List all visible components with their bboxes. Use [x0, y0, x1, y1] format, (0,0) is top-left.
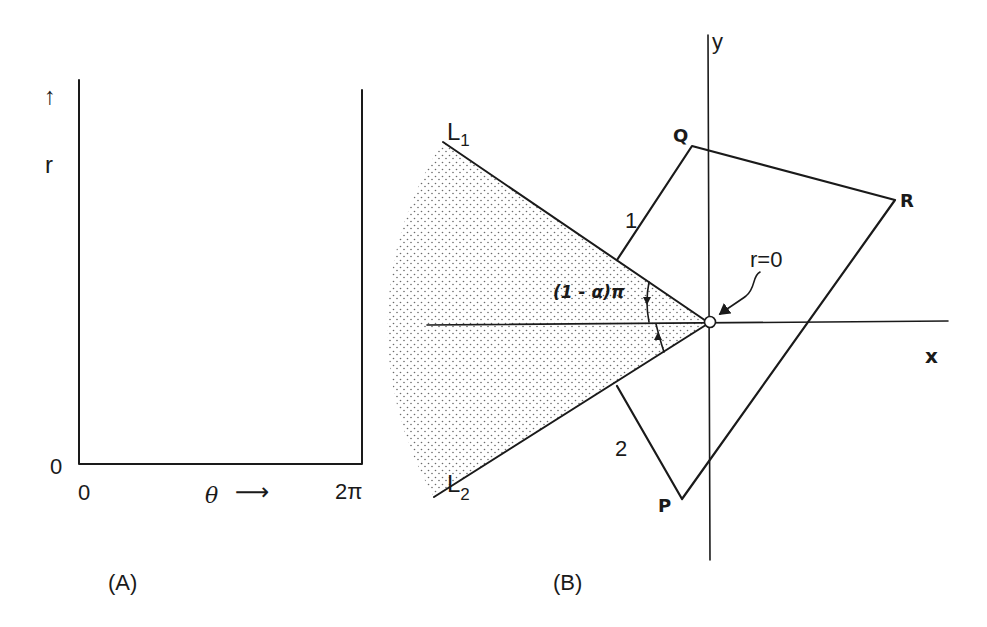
- vertex-q-label: Q: [673, 125, 688, 146]
- origin-point: [705, 317, 716, 328]
- line-l1-label: L1: [447, 118, 470, 150]
- y-axis: [708, 35, 710, 560]
- vertex-r-label: R: [900, 190, 914, 211]
- theta-end-label: 2π: [335, 479, 362, 504]
- origin-label: r=0: [750, 247, 782, 272]
- theta-origin-label: 0: [78, 480, 90, 505]
- figure: ↑ r 0 0 θ ⟶ 2π (A) y x L1 L2 1: [0, 0, 987, 627]
- panel-b-caption: (B): [553, 570, 582, 595]
- panel-a-caption: (A): [108, 570, 137, 595]
- panel-a-rectangle: [79, 80, 362, 464]
- r-axis-label: r: [45, 151, 53, 178]
- x-axis-label: x: [925, 344, 938, 368]
- vertex-p-label: P: [658, 495, 671, 516]
- y-axis-label: y: [712, 29, 723, 54]
- angle-label: (1 - α)π: [553, 282, 625, 302]
- origin-pointer-arrow-icon: [720, 272, 760, 314]
- panel-a: ↑ r 0 0 θ ⟶ 2π (A): [44, 80, 362, 595]
- r-origin-label: 0: [50, 454, 62, 479]
- r-arrow-icon: ↑: [44, 82, 56, 109]
- side-2-label: 2: [615, 436, 627, 461]
- theta-arrow-icon: ⟶: [235, 478, 269, 505]
- side-1-label: 1: [625, 208, 637, 233]
- panel-b: y x L1 L2 1 2 Q R P r=0 (1 - α)π (B): [387, 29, 948, 595]
- theta-axis-label: θ: [205, 483, 218, 508]
